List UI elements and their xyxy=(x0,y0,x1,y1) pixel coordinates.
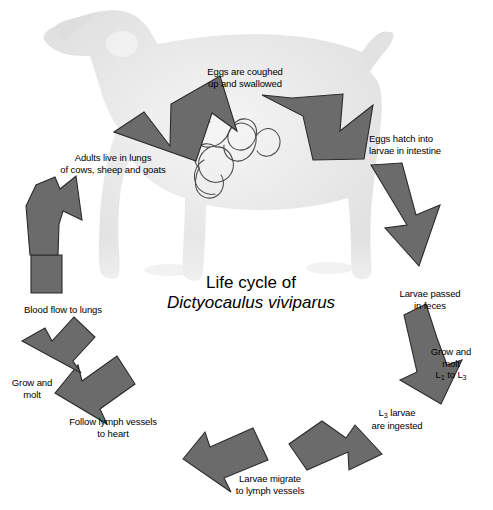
arrow-larvae-passed xyxy=(371,163,440,266)
life-cycle-diagram: Life cycle of Dictyocaulus viviparus Egg… xyxy=(0,0,493,510)
grow-molt-l1-l3-line2: molt xyxy=(442,358,460,369)
grow-molt-l1-l3-to: to L xyxy=(445,369,463,380)
label-grow-molt: Grow and molt xyxy=(1,377,63,400)
title-line-1: Life cycle of xyxy=(146,273,356,293)
arrow-follow-lymph xyxy=(55,356,135,424)
label-adults-live: Adults live in lungs of cows, sheep and … xyxy=(47,152,179,175)
label-larvae-passed: Larvae passed in feces xyxy=(383,288,477,311)
label-blood-flow: Blood flow to lungs xyxy=(9,304,117,316)
title-line-2: Dictyocaulus viviparus xyxy=(146,293,356,313)
label-follow-lymph: Follow lymph vessels to heart xyxy=(51,416,175,439)
figure-caption xyxy=(0,504,493,510)
grow-molt-l1-l3-sub1: 1 xyxy=(441,373,445,382)
grow-molt-l1-l3-sub3: 3 xyxy=(463,373,467,382)
label-eggs-coughed: Eggs are coughed up and swallowed xyxy=(186,66,304,89)
l3-ingested-line2: are ingested xyxy=(371,420,422,431)
arrow-blood-flow xyxy=(31,255,62,293)
arrow-eggs-hatch xyxy=(262,94,373,160)
label-larvae-migrate: Larvae migrate to lymph vessels xyxy=(211,473,329,496)
figure-title: Life cycle of Dictyocaulus viviparus xyxy=(146,273,356,313)
label-eggs-hatch: Eggs hatch into larvae in intestine xyxy=(369,133,493,156)
label-grow-molt-l1-l3: Grow andmoltL1 to L3 xyxy=(414,346,488,382)
arrow-adults-live xyxy=(26,176,82,255)
arrow-grow-molt xyxy=(22,317,95,373)
label-l3-ingested: L3 larvaeare ingested xyxy=(351,407,443,431)
l3-ingested-larvae: larvae xyxy=(388,407,416,418)
grow-molt-l1-l3-l1: L xyxy=(436,369,441,380)
l3-ingested-sub: 3 xyxy=(384,411,388,420)
grow-molt-l1-l3-line1: Grow and xyxy=(431,346,471,357)
l3-ingested-l: L xyxy=(379,407,384,418)
